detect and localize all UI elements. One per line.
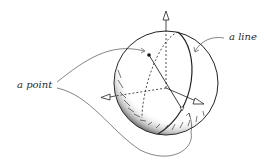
label-a-line: a line [229, 31, 257, 42]
label-a-point: a point [17, 79, 52, 90]
point-top-marker [147, 53, 151, 57]
sphere-diagram: a point a line [0, 0, 273, 162]
